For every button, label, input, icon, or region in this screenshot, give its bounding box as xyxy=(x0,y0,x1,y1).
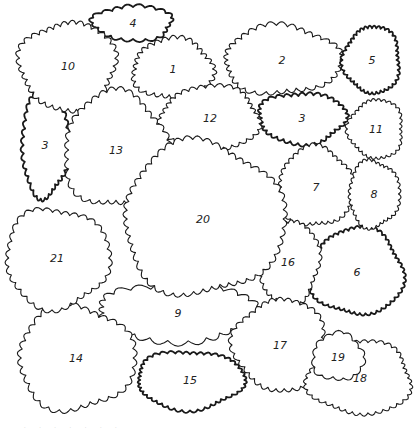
planting-plan-canvas xyxy=(0,0,419,435)
caption: · · · · · · · xyxy=(24,424,123,430)
shrub-15 xyxy=(138,351,247,413)
shrub-8 xyxy=(348,159,401,231)
shrub-2 xyxy=(224,22,344,96)
shrub-7 xyxy=(279,143,357,226)
shrub-6 xyxy=(309,225,407,315)
shrub-21 xyxy=(5,208,112,313)
shrub-3 xyxy=(258,92,349,147)
shrub-11 xyxy=(345,99,402,160)
shrub-5 xyxy=(340,26,400,95)
